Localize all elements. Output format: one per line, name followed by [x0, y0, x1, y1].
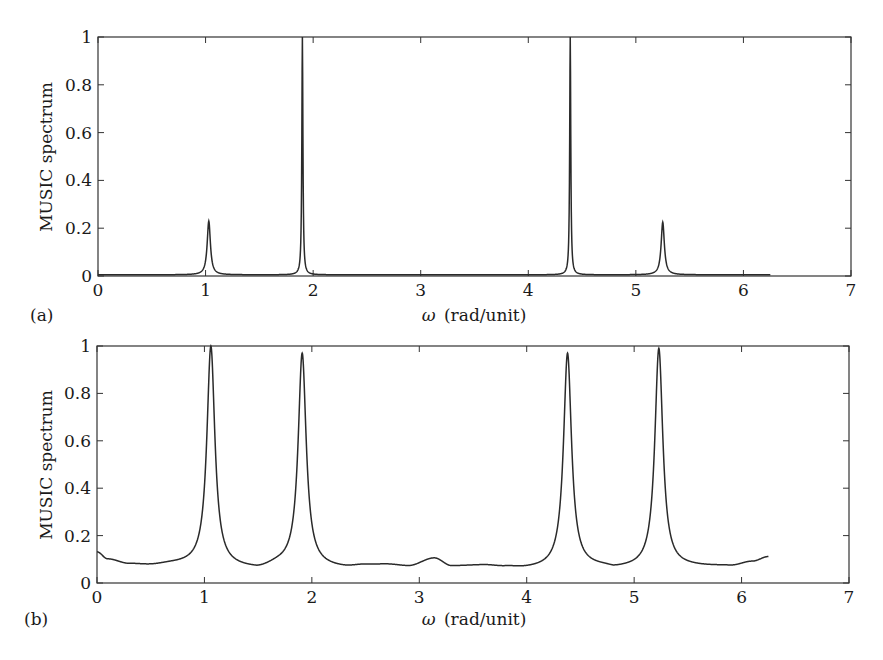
- y-tick-label: 0.6: [65, 123, 92, 143]
- omega-symbol: ω: [422, 609, 436, 629]
- x-tick-label: 4: [521, 587, 532, 607]
- panel-b-axes-frame: [97, 346, 849, 583]
- panel-a-label: (a): [30, 305, 53, 325]
- panel-b: 01234567 00.20.40.60.81 MUSIC spectrum ω…: [24, 336, 854, 629]
- x-tick-label: 5: [630, 280, 641, 300]
- x-tick-label: 2: [306, 587, 317, 607]
- chart-canvas: 01234567 00.20.40.60.81 MUSIC spectrum ω…: [0, 0, 883, 660]
- y-tick-label: 0.8: [65, 75, 92, 95]
- y-tick-label: 0: [81, 266, 92, 286]
- y-tick-label: 0.2: [65, 218, 92, 238]
- panel-a: 01234567 00.20.40.60.81 MUSIC spectrum ω…: [30, 27, 856, 325]
- panel-b-label: (b): [24, 609, 48, 629]
- panel-a-x-tick-labels: 01234567: [93, 280, 857, 300]
- x-tick-label: 0: [92, 587, 103, 607]
- panel-b-y-axis-label: MUSIC spectrum: [36, 390, 56, 540]
- x-tick-label: 7: [846, 280, 857, 300]
- y-tick-label: 1: [80, 336, 91, 356]
- omega-symbol: ω: [422, 305, 436, 325]
- panel-b-spectrum-line: [97, 346, 768, 566]
- y-tick-label: 0.2: [64, 526, 91, 546]
- x-tick-label: 6: [736, 587, 747, 607]
- x-tick-label: 2: [308, 280, 319, 300]
- panel-b-x-axis-label: ω (rad/unit): [422, 609, 527, 629]
- y-tick-label: 0.4: [65, 170, 92, 190]
- panel-b-x-tick-labels: 01234567: [92, 587, 855, 607]
- x-units: (rad/unit): [444, 305, 526, 325]
- x-tick-label: 3: [414, 587, 425, 607]
- y-tick-label: 0.8: [64, 383, 91, 403]
- panel-a-y-axis-label: MUSIC spectrum: [36, 82, 56, 232]
- x-tick-label: 6: [738, 280, 749, 300]
- y-tick-label: 0: [80, 573, 91, 593]
- y-tick-label: 0.4: [64, 478, 91, 498]
- panel-b-y-tick-labels: 00.20.40.60.81: [64, 336, 91, 593]
- figure: 01234567 00.20.40.60.81 MUSIC spectrum ω…: [0, 0, 883, 660]
- panel-a-spectrum-line: [98, 37, 770, 275]
- x-tick-label: 1: [200, 280, 211, 300]
- x-tick-label: 3: [415, 280, 426, 300]
- panel-b-ticks: [97, 346, 849, 583]
- x-tick-label: 1: [199, 587, 210, 607]
- x-tick-label: 7: [844, 587, 855, 607]
- x-tick-label: 5: [629, 587, 640, 607]
- x-tick-label: 4: [523, 280, 534, 300]
- x-tick-label: 0: [93, 280, 104, 300]
- x-units: (rad/unit): [444, 609, 526, 629]
- panel-a-y-tick-labels: 00.20.40.60.81: [65, 27, 92, 286]
- y-tick-label: 0.6: [64, 431, 91, 451]
- panel-a-x-axis-label: ω (rad/unit): [422, 305, 527, 325]
- y-tick-label: 1: [81, 27, 92, 47]
